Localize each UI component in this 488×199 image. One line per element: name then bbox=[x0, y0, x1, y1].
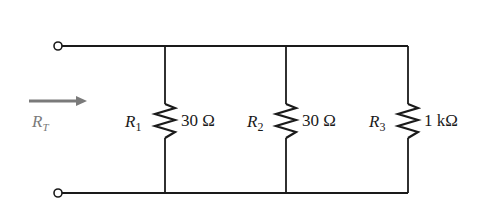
resistor-zigzag-icon bbox=[276, 104, 296, 138]
rt-label: RT bbox=[31, 112, 49, 133]
resistor-r3 bbox=[398, 46, 418, 193]
r1-name-label: R1 bbox=[124, 112, 141, 134]
r2-name-label: R2 bbox=[246, 112, 263, 134]
resistor-zigzag-icon bbox=[398, 104, 418, 138]
r3-value-label: 1 kΩ bbox=[424, 111, 458, 130]
bottom-terminal bbox=[54, 189, 62, 197]
r1-value-label: 30 Ω bbox=[181, 111, 215, 130]
circuit-diagram: RT R1 30 Ω R2 30 Ω R3 1 kΩ bbox=[0, 0, 488, 199]
resistor-r1 bbox=[155, 46, 175, 193]
r2-value-label: 30 Ω bbox=[302, 111, 336, 130]
top-terminal bbox=[54, 42, 62, 50]
r3-name-label: R3 bbox=[368, 112, 385, 134]
resistor-zigzag-icon bbox=[155, 104, 175, 138]
resistor-r2 bbox=[276, 46, 296, 193]
rt-arrow-icon bbox=[29, 96, 87, 106]
